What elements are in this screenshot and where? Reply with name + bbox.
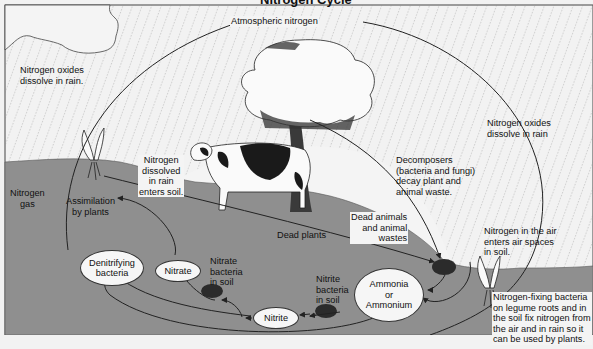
label-nitrate-bacteria: Nitrate bacteria in soil	[210, 256, 243, 288]
label-line: enters soil.	[139, 187, 183, 198]
label-line: and animal	[351, 223, 407, 234]
node-label: bacteria	[89, 268, 135, 279]
label-line: (bacteria and fungi)	[396, 166, 475, 177]
label-line: bacteria	[316, 285, 349, 296]
label-line: can be used by plants.	[493, 334, 591, 345]
label-line: wastes	[351, 233, 407, 244]
node-label: Ammonia	[366, 279, 412, 290]
label-oxides-right: Nitrogen oxides dissolve in rain	[487, 118, 551, 139]
label-line: in rain	[139, 176, 183, 187]
label-atmospheric-nitrogen: Atmospheric nitrogen	[230, 16, 319, 27]
node-label: or	[366, 290, 412, 301]
label-nitrogen-fixing: Nitrogen-fixing bacteria on legume roots…	[492, 292, 592, 345]
label-decomposers: Decomposers (bacteria and fungi) decay p…	[396, 155, 475, 197]
node-nitrite: Nitrite	[253, 307, 299, 329]
label-line: Decomposers	[396, 155, 475, 166]
label-dead-animals: Dead animals and animal wastes	[350, 212, 408, 244]
label-line: Nitrogen oxides	[20, 65, 84, 76]
node-ammonia-ammonium: Ammonia or Ammonium	[354, 268, 424, 322]
label-line: in soil.	[484, 247, 557, 258]
nitrogen-cycle-diagram: Nitrogen Cycle Atmospheric nitrogen Nitr…	[0, 0, 593, 349]
label-line: by plants	[66, 207, 115, 218]
label-line: in soil	[316, 295, 349, 306]
label-line: Nitrogen in the air	[484, 226, 557, 237]
label-line: gas	[10, 199, 45, 210]
label-line: animal waste.	[396, 187, 475, 198]
label-line: Nitrate	[210, 256, 243, 267]
node-nitrate: Nitrate	[155, 260, 201, 282]
diagram-title-partial: Nitrogen Cycle	[260, 0, 352, 7]
label-line: on legume roots and in	[493, 303, 591, 314]
label-line: dissolve in rain	[487, 129, 551, 140]
node-label: Denitrifying	[89, 258, 135, 269]
label-line: decay plant and	[396, 176, 475, 187]
label-line: Assimilation	[66, 196, 115, 207]
label-assimilation: Assimilation by plants	[66, 196, 115, 217]
label-line: Nitrite	[316, 274, 349, 285]
label-line: Nitrogen oxides	[487, 118, 551, 129]
label-dead-plants: Dead plants	[277, 230, 326, 241]
label-nitrite-bacteria: Nitrite bacteria in soil	[316, 274, 349, 306]
label-line: dissolve in rain.	[20, 76, 84, 87]
label-line: Nitrogen	[139, 155, 183, 166]
node-denitrifying-bacteria: Denitrifying bacteria	[80, 250, 144, 286]
label-air-spaces: Nitrogen in the air enters air spaces in…	[484, 226, 557, 258]
label-line: the air and in rain so it	[493, 324, 591, 335]
label-line: Dead animals	[351, 212, 407, 223]
label-line: bacteria	[210, 267, 243, 278]
label-line: Nitrogen-fixing bacteria	[493, 292, 591, 303]
label-line: the soil fix nitrogen from	[493, 313, 591, 324]
label-nitrogen-gas: Nitrogen gas	[10, 188, 45, 209]
node-label: Ammonium	[366, 300, 412, 311]
label-dissolved-rain: Nitrogen dissolved in rain enters soil.	[138, 155, 184, 197]
label-oxides-left: Nitrogen oxides dissolve in rain.	[20, 65, 84, 86]
label-line: Nitrogen	[10, 188, 45, 199]
label-line: dissolved	[139, 166, 183, 177]
label-line: in soil	[210, 277, 243, 288]
label-line: enters air spaces	[484, 237, 557, 248]
